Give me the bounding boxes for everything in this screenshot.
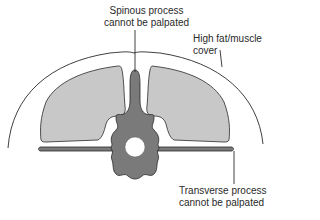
transverse-label-line2: cannot be palpated	[179, 197, 266, 209]
spinous-label-line1: Spinous process	[104, 5, 189, 17]
right-muscle-mass	[147, 66, 230, 142]
spinous-process-label: Spinous process cannot be palpated	[104, 5, 189, 29]
spinal-canal	[125, 137, 145, 157]
fat-cover-label: High fat/muscle cover	[193, 33, 262, 57]
left-muscle-mass	[41, 66, 126, 142]
transverse-label-line1: Transverse process	[179, 185, 266, 197]
spinous-label-line2: cannot be palpated	[104, 17, 189, 29]
fat-label-line2: cover	[193, 45, 262, 57]
transverse-process-label: Transverse process cannot be palpated	[179, 185, 266, 209]
fat-label-line1: High fat/muscle	[193, 33, 262, 45]
